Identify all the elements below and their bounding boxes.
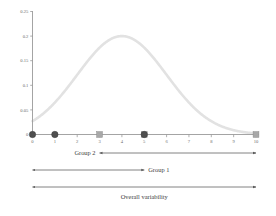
label-group-2: Group 2 bbox=[74, 149, 95, 156]
y-tick-label-5: 0.25 bbox=[20, 9, 29, 14]
y-tick-label-1: 0.05 bbox=[20, 108, 29, 113]
chart-canvas: 00.050.10.150.20.25 012345678910 Group 2… bbox=[0, 0, 276, 216]
marker-circle-x5 bbox=[141, 131, 147, 137]
marker-circle-x1 bbox=[52, 131, 58, 137]
chart-background bbox=[0, 0, 276, 216]
y-tick-label-4: 0.2 bbox=[23, 34, 29, 39]
marker-circle-x0 bbox=[29, 131, 35, 137]
variability-chart: 00.050.10.150.20.25 012345678910 Group 2… bbox=[0, 0, 276, 216]
marker-square-x3 bbox=[97, 132, 103, 138]
y-tick-label-3: 0.15 bbox=[20, 58, 29, 63]
label-overall-variability: Overall variability bbox=[121, 193, 169, 200]
x-tick-label-10: 10 bbox=[254, 139, 259, 144]
label-group-1: Group 1 bbox=[148, 166, 169, 173]
y-tick-label-2: 0.1 bbox=[23, 83, 29, 88]
marker-square-x10 bbox=[253, 132, 259, 138]
